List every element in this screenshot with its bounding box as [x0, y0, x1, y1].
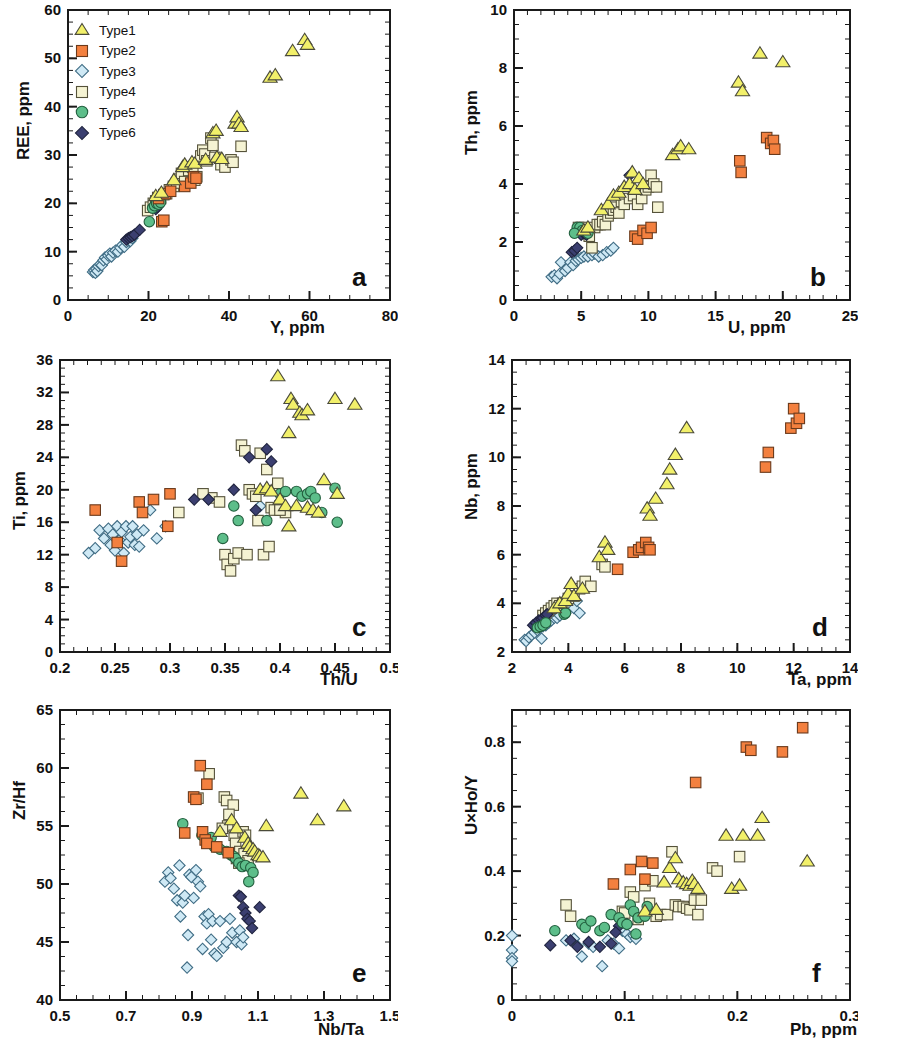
- data-point-type2: [777, 747, 788, 758]
- legend-item-type6[interactable]: Type6: [72, 123, 136, 144]
- y-tick-label: 50: [44, 49, 61, 66]
- x-tick-label: 6: [620, 659, 628, 676]
- x-tick-label: 0.25: [100, 659, 129, 676]
- y-tick-label: 50: [36, 875, 53, 892]
- y-tick-label: 0.4: [484, 862, 506, 879]
- plot-d: 24681012142468101214: [470, 354, 858, 686]
- x-tick-label: 0: [508, 1007, 516, 1024]
- x-axis-label-a: Y, ppm: [270, 318, 325, 338]
- data-point-type4: [565, 911, 576, 922]
- triangle-icon: [72, 22, 92, 38]
- data-point-type2: [223, 847, 234, 858]
- diamond-icon: [72, 63, 92, 79]
- panel-e: 0.50.70.91.11.31.5404550556065: [18, 704, 398, 1034]
- data-point-type2: [636, 856, 647, 867]
- data-point-type5: [599, 922, 609, 932]
- x-tick-label: 0.2: [50, 659, 71, 676]
- data-point-type4: [264, 541, 275, 552]
- data-point-type2: [202, 779, 213, 790]
- data-point-type2: [769, 144, 780, 155]
- data-point-type4: [214, 497, 225, 508]
- data-point-type4: [734, 851, 745, 862]
- data-point-type2: [159, 215, 170, 226]
- legend-item-type1[interactable]: Type1: [72, 20, 136, 41]
- y-tick-label: 24: [36, 448, 53, 465]
- x-tick-label: 80: [382, 307, 398, 324]
- diamond-glyph: [75, 65, 88, 78]
- y-tick-label: 12: [488, 400, 505, 417]
- x-tick-label: 0.4: [270, 659, 292, 676]
- x-axis-label-b: U, ppm: [728, 318, 786, 338]
- data-point-type4: [587, 243, 598, 254]
- data-point-type4: [561, 900, 572, 911]
- y-tick-label: 40: [44, 98, 61, 115]
- data-point-type4: [600, 562, 611, 573]
- y-tick-label: 8: [499, 59, 507, 76]
- x-axis-label-f: Pb, ppm: [790, 1020, 857, 1040]
- data-point-type5: [586, 916, 596, 926]
- legend-label: Type5: [99, 105, 136, 120]
- y-tick-label: 16: [36, 513, 53, 530]
- panel-letter-d: d: [812, 612, 828, 643]
- y-tick-label: 0.6: [484, 798, 505, 815]
- panel-letter-a: a: [352, 262, 366, 293]
- data-point-type5: [332, 517, 342, 527]
- legend-item-type4[interactable]: Type4: [72, 82, 136, 103]
- legend-label: Type4: [99, 84, 136, 99]
- data-point-type2: [148, 494, 159, 505]
- y-tick-label: 28: [36, 416, 53, 433]
- x-tick-label: 10: [640, 307, 657, 324]
- square-glyph: [77, 45, 88, 56]
- y-tick-label: 0: [53, 291, 61, 308]
- data-point-type2: [90, 505, 101, 516]
- y-tick-label: 40: [36, 991, 53, 1008]
- data-point-type2: [612, 564, 623, 575]
- diamond-glyph: [75, 126, 88, 139]
- y-tick-label: 14: [488, 354, 505, 368]
- y-tick-label: 20: [44, 194, 61, 211]
- data-point-type5: [541, 618, 551, 628]
- data-point-type5: [550, 926, 560, 936]
- data-point-type2: [797, 722, 808, 733]
- y-tick-label: 4: [497, 594, 506, 611]
- legend-label: Type1: [99, 23, 136, 38]
- x-tick-label: 0.5: [380, 659, 398, 676]
- data-point-type4: [696, 895, 707, 906]
- diamond-icon: [72, 125, 92, 141]
- panel-letter-b: b: [810, 262, 826, 293]
- data-point-type4: [651, 182, 662, 193]
- legend-item-type5[interactable]: Type5: [72, 102, 136, 123]
- square-icon: [72, 84, 92, 100]
- y-tick-label: 36: [36, 354, 53, 368]
- x-tick-label: 0.3: [160, 659, 181, 676]
- data-point-type4: [693, 909, 704, 920]
- data-point-type2: [763, 447, 774, 458]
- panel-b: 05101520250246810: [472, 4, 858, 334]
- y-tick-label: 4: [499, 175, 508, 192]
- legend-item-type3[interactable]: Type3: [72, 61, 136, 82]
- y-tick-label: 6: [497, 546, 505, 563]
- square-icon: [72, 43, 92, 59]
- y-tick-label: 2: [499, 233, 507, 250]
- y-tick-label: 65: [36, 704, 53, 718]
- data-point-type4: [174, 507, 185, 518]
- x-tick-label: 0.1: [614, 1007, 635, 1024]
- plot-frame: [512, 710, 850, 1000]
- x-tick-label: 15: [707, 307, 724, 324]
- y-tick-label: 0.2: [484, 927, 505, 944]
- x-tick-label: 0.9: [182, 1007, 203, 1024]
- y-tick-label: 0: [45, 643, 53, 660]
- data-point-type2: [645, 545, 656, 556]
- legend-item-type2[interactable]: Type2: [72, 41, 136, 62]
- x-tick-label: 40: [221, 307, 238, 324]
- data-point-type4: [228, 157, 239, 168]
- data-point-type5: [229, 501, 239, 511]
- x-tick-label: 0: [64, 307, 72, 324]
- figure-container: 0204060800102030405060REE, ppmY, ppma051…: [0, 0, 901, 1059]
- panel-letter-e: e: [352, 958, 366, 989]
- x-tick-label: 0.2: [727, 1007, 748, 1024]
- y-tick-label: 60: [44, 4, 61, 18]
- legend-label: Type2: [99, 43, 136, 58]
- data-point-type4: [273, 478, 284, 489]
- y-tick-label: 10: [490, 4, 507, 18]
